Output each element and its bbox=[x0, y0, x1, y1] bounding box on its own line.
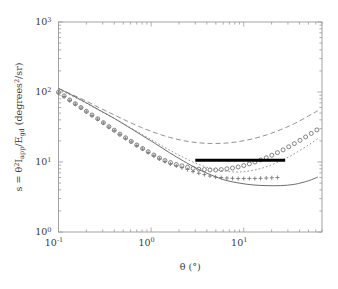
marker-circle bbox=[230, 166, 234, 170]
axis-tick-labels: 10-1100101100101102103 bbox=[35, 16, 247, 248]
marker-circle bbox=[292, 142, 296, 146]
series-model-dashed-upper bbox=[59, 89, 318, 144]
marker-circle bbox=[247, 162, 251, 166]
marker-circle bbox=[225, 167, 229, 171]
marker-circle bbox=[287, 145, 291, 149]
series-model-solid-lower bbox=[59, 88, 318, 185]
x-tick-label: 101 bbox=[231, 236, 247, 248]
marker-circle bbox=[309, 131, 313, 135]
x-tick-label: 100 bbox=[138, 236, 154, 248]
marker-circle bbox=[242, 164, 246, 168]
marker-circle bbox=[315, 128, 319, 132]
marker-circle bbox=[298, 138, 302, 142]
marker-circle bbox=[304, 135, 308, 139]
y-tick-label: 102 bbox=[35, 86, 51, 98]
marker-circle bbox=[270, 153, 274, 157]
axes-frame bbox=[59, 22, 323, 232]
data-series bbox=[57, 88, 319, 185]
y-tick-label: 103 bbox=[35, 16, 51, 28]
axis-ticks bbox=[59, 22, 323, 232]
chart-canvas: 10-1100101100101102103 s = θ2Iapp/Egd (d… bbox=[0, 0, 338, 289]
marker-circle bbox=[236, 165, 240, 169]
figure-container: 10-1100101100101102103 s = θ2Iapp/Egd (d… bbox=[0, 0, 338, 289]
y-axis-title: s = θ2Iapp/Egd (degrees2/sr) bbox=[13, 63, 27, 192]
marker-circle bbox=[275, 151, 279, 155]
marker-circle bbox=[214, 168, 218, 172]
x-axis-title: θ (°) bbox=[180, 261, 201, 272]
x-tick-label: 10-1 bbox=[45, 236, 63, 248]
marker-circle bbox=[281, 148, 285, 152]
y-tick-label: 101 bbox=[35, 156, 51, 168]
plot-frame bbox=[59, 22, 323, 232]
y-tick-label: 100 bbox=[35, 226, 51, 238]
